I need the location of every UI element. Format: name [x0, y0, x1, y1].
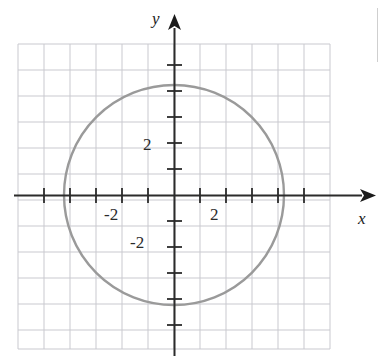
x-tick-label-2: 2	[210, 206, 219, 223]
graph-canvas	[0, 0, 385, 363]
x-axis-arrow-icon	[360, 189, 376, 202]
y-tick-label-2: 2	[143, 136, 152, 153]
x-tick-label-minus-2: -2	[104, 206, 118, 223]
page-edge-line	[377, 8, 378, 62]
y-tick-label-minus-2: -2	[130, 234, 144, 251]
coordinate-plane-figure: y x 2 -2 -2 2	[0, 0, 385, 363]
y-axis-arrow-icon	[168, 14, 181, 30]
y-axis-label: y	[152, 10, 160, 27]
x-axis-label: x	[358, 210, 366, 227]
